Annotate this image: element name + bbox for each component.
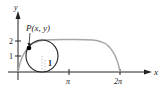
y-axis-arrow-icon bbox=[16, 11, 21, 19]
x-tick-label-pi: π bbox=[66, 77, 71, 86]
y-axis-label: y bbox=[13, 3, 18, 12]
x-axis-label: x bbox=[153, 67, 158, 77]
point-label: P(x, y) bbox=[25, 23, 50, 33]
x-axis-arrow-icon bbox=[144, 70, 152, 75]
radius-label: 1 bbox=[48, 59, 52, 68]
cycloid-diagram: x y 1 2 π 2π 1 P(x, y) bbox=[0, 0, 161, 94]
cycloid-curve bbox=[18, 39, 120, 72]
y-tick-label-2: 2 bbox=[9, 37, 13, 46]
x-tick-label-2pi: 2π bbox=[114, 77, 123, 86]
y-tick-label-1: 1 bbox=[9, 52, 13, 61]
